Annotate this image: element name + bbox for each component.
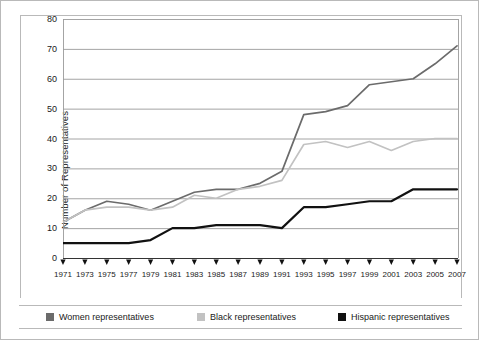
x-axis-tick-label: 1999 [361, 270, 379, 279]
x-axis-tick-label: 1981 [164, 270, 182, 279]
x-axis-tick-label: 1973 [76, 270, 94, 279]
x-axis-tick-label: 1987 [229, 270, 247, 279]
x-axis-tick-label: 1993 [295, 270, 313, 279]
x-axis-tick-label: 1979 [142, 270, 160, 279]
x-axis-tick-labels: 1971197319751977197919811983198519871989… [1, 263, 479, 285]
x-axis-tick-label: 1991 [273, 270, 291, 279]
legend-item-hispanic[interactable]: Hispanic representatives [338, 312, 450, 322]
chart-plot-area [63, 19, 458, 258]
x-axis-tick-label: 2007 [448, 270, 466, 279]
legend-swatch-icon [338, 313, 346, 321]
x-axis-tick-label: 1997 [339, 270, 357, 279]
x-axis-tick-label: 1975 [98, 270, 116, 279]
x-axis-tick-label: 2003 [404, 270, 422, 279]
x-axis-tick-label: 2001 [382, 270, 400, 279]
legend-item-black[interactable]: Black representatives [197, 312, 296, 322]
legend-label: Women representatives [59, 312, 154, 322]
series-line-black [63, 139, 457, 223]
legend-label: Black representatives [210, 312, 296, 322]
chart-figure: Number of Representatives 80706050403020… [0, 0, 479, 340]
legend-swatch-icon [197, 313, 205, 321]
legend-swatch-icon [46, 313, 54, 321]
x-axis-tick-label: 1971 [54, 270, 72, 279]
series-line-women [63, 46, 457, 222]
chart-legend: Women representatives Black representati… [19, 305, 462, 329]
x-axis-tick-label: 1983 [185, 270, 203, 279]
x-axis-tick-label: 2005 [426, 270, 444, 279]
legend-item-women[interactable]: Women representatives [46, 312, 154, 322]
x-axis-tick-label: 1977 [120, 270, 138, 279]
series-line-hispanic [63, 189, 457, 243]
legend-label: Hispanic representatives [351, 312, 450, 322]
x-axis-tick-label: 1995 [317, 270, 335, 279]
x-axis-tick-label: 1985 [207, 270, 225, 279]
x-axis-tick-label: 1989 [251, 270, 269, 279]
